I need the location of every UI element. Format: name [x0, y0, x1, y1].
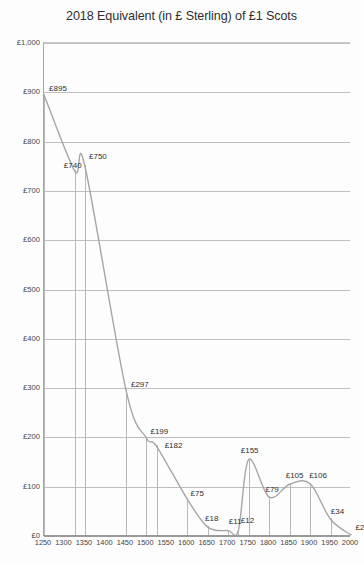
data-point-label: £895	[49, 84, 67, 93]
x-axis-tick-label: 2000	[342, 538, 358, 547]
data-point-label: £2	[356, 523, 364, 532]
chart-title: 2018 Equivalent (in £ Sterling) of £1 Sc…	[0, 9, 363, 23]
gridline	[44, 536, 350, 537]
y-axis-tick-label: £700	[2, 185, 40, 194]
x-axis-tick-label: 1300	[55, 538, 71, 547]
y-axis-tick-label: £300	[2, 383, 40, 392]
y-axis-tick-label: £500	[2, 284, 40, 293]
x-axis-labels: 1250130013501400145015001550160016501700…	[43, 538, 350, 556]
x-axis-tick-label: 1900	[301, 538, 317, 547]
data-point-label: £740	[64, 161, 82, 170]
data-point-label: £12	[241, 516, 254, 525]
x-axis-tick-label: 1700	[219, 538, 235, 547]
data-point-label: £182	[165, 441, 183, 450]
x-axis-tick-label: 1250	[35, 538, 51, 547]
y-axis-labels: £0£100£200£300£400£500£600£700£800£900£1…	[0, 42, 40, 535]
x-axis-tick-label: 1850	[280, 538, 296, 547]
x-axis-tick-label: 1450	[117, 538, 133, 547]
y-axis-tick-label: £900	[2, 87, 40, 96]
y-axis-tick-label: £1,000	[2, 38, 40, 47]
data-point-label: £105	[286, 471, 304, 480]
x-axis-tick-label: 1950	[321, 538, 337, 547]
data-point-labels: £895£740£750£297£199£182£75£18£11£12£155…	[44, 43, 350, 535]
x-axis-tick-label: 1550	[158, 538, 174, 547]
y-axis-tick-label: £600	[2, 235, 40, 244]
x-axis-tick-label: 1350	[76, 538, 92, 547]
x-axis-tick-label: 1500	[137, 538, 153, 547]
data-point-label: £79	[265, 485, 278, 494]
x-axis-tick-label: 1650	[198, 538, 214, 547]
data-point-label: £750	[89, 152, 107, 161]
data-point-label: £34	[331, 507, 344, 516]
x-axis-tick-label: 1600	[178, 538, 194, 547]
x-axis-line	[43, 535, 350, 536]
x-axis-tick-label: 1750	[239, 538, 255, 547]
data-point-label: £75	[191, 489, 204, 498]
y-axis-tick-label: £800	[2, 136, 40, 145]
x-axis-tick-label: 1800	[260, 538, 276, 547]
data-point-label: £106	[309, 471, 327, 480]
data-point-label: £297	[131, 380, 149, 389]
x-axis-tick-label: 1400	[96, 538, 112, 547]
data-point-label: £11	[229, 517, 242, 526]
data-point-label: £155	[241, 446, 259, 455]
data-point-label: £199	[150, 427, 168, 436]
data-dropline	[351, 534, 352, 535]
y-axis-tick-label: £200	[2, 432, 40, 441]
y-axis-tick-label: £100	[2, 481, 40, 490]
y-axis-tick-label: £400	[2, 333, 40, 342]
plot-area: £895£740£750£297£199£182£75£18£11£12£155…	[43, 42, 350, 535]
data-point-label: £18	[205, 514, 218, 523]
